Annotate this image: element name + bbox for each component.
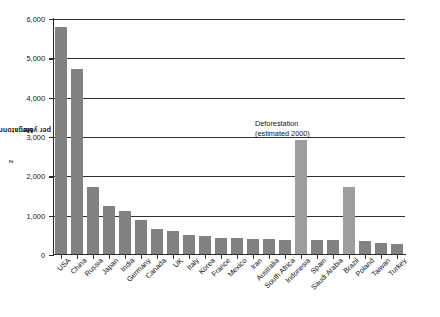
bar-usa (55, 27, 67, 254)
y-axis-tick-labels: 6,0005,0004,0003,0002,0001,0000 (16, 0, 49, 317)
bar-brazil (343, 187, 355, 254)
y-axis-tick-label: 4,000 (27, 93, 46, 102)
bar-italy (183, 235, 195, 254)
bar-china (71, 69, 83, 254)
bar-germany (135, 220, 147, 254)
plot-area: Deforestation(estimated 2000) (53, 19, 405, 255)
bar-japan (103, 206, 115, 254)
bar-indonesia (295, 140, 307, 254)
y-axis-tick-label: 5,000 (27, 54, 46, 63)
bar-poland (359, 241, 371, 254)
bar-uk (167, 231, 179, 254)
bar-saudi-arabia (327, 240, 339, 254)
bar-canada (151, 229, 163, 254)
annotation-line-2: (estimated 2000) (255, 129, 310, 138)
y-axis-tick-label: 3,000 (27, 133, 46, 142)
bar-korea (199, 236, 211, 254)
y-axis-tick-label: 2,000 (27, 172, 46, 181)
bar-russia (87, 187, 99, 254)
bar-iran (247, 239, 259, 254)
bar-mexico (231, 238, 243, 254)
y-axis-tick-label: 0 (41, 251, 45, 260)
y-axis-tick-label: 6,000 (27, 15, 46, 24)
bar-australia (263, 239, 275, 254)
y-axis-tick-label: 1,000 (27, 211, 46, 220)
annotation-deforestation: Deforestation(estimated 2000) (255, 119, 310, 138)
x-axis-label-uk: UK (171, 256, 185, 270)
bar-india (119, 211, 131, 254)
x-axis-label-japan: Japan (100, 256, 120, 276)
bar-france (215, 238, 227, 254)
x-axis-category-labels: USAChinaRussiaJapanIndiaGermanyCanadaUKI… (53, 256, 413, 317)
annotation-line-1: Deforestation (255, 119, 310, 128)
bar-spain (311, 240, 323, 254)
co2-emissions-bar-chart: Megatonnes of CO2 per year 6,0005,0004,0… (0, 0, 440, 317)
bar-south-africa (279, 240, 291, 254)
bar-taiwan (375, 243, 387, 254)
y-axis-title-subscript: 2 (9, 159, 15, 162)
bar-turkey (391, 244, 403, 254)
bars-layer (53, 19, 405, 254)
